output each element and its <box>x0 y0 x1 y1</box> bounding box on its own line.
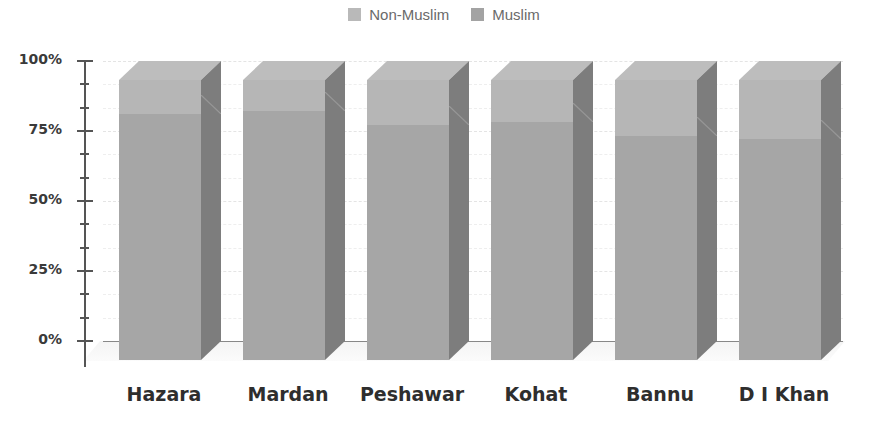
y-axis-line <box>84 61 86 367</box>
bar-side-face <box>697 61 717 360</box>
y-tick-label: 0% <box>0 331 62 347</box>
bar-segment-non-muslim <box>739 80 821 139</box>
bar-segment-non-muslim <box>491 80 573 122</box>
bar-side-split <box>697 117 717 136</box>
bar-segment-non-muslim <box>119 80 201 114</box>
bar-segment-muslim <box>615 136 697 360</box>
legend-item-muslim: Muslim <box>471 6 540 23</box>
legend-swatch-non-muslim <box>348 8 361 21</box>
bar-side-split <box>573 103 593 122</box>
bar-segment-muslim <box>491 122 573 360</box>
chart-legend: Non-Muslim Muslim <box>0 6 888 23</box>
legend-label-muslim: Muslim <box>492 6 540 23</box>
y-tick-label: 50% <box>0 191 62 207</box>
bar-segment-muslim <box>243 111 325 360</box>
x-category-label: Hazara <box>104 383 224 405</box>
bar-segment-non-muslim <box>243 80 325 111</box>
y-tick-label: 75% <box>0 121 62 137</box>
bar-segment-muslim <box>739 139 821 360</box>
legend-item-non-muslim: Non-Muslim <box>348 6 449 23</box>
x-category-label: Peshawar <box>352 383 472 405</box>
bar-segment-muslim <box>367 125 449 360</box>
y-tick-label: 25% <box>0 261 62 277</box>
x-category-label: D I Khan <box>724 383 844 405</box>
y-tick-label: 100% <box>0 51 62 67</box>
legend-label-non-muslim: Non-Muslim <box>369 6 449 23</box>
bar-side-split <box>821 120 841 139</box>
x-category-label: Bannu <box>600 383 720 405</box>
bar-side-split <box>325 92 345 111</box>
x-category-label: Kohat <box>476 383 596 405</box>
bar-segment-non-muslim <box>367 80 449 125</box>
legend-swatch-muslim <box>471 8 484 21</box>
bar-side-face <box>821 61 841 360</box>
x-category-label: Mardan <box>228 383 348 405</box>
bar-segment-non-muslim <box>615 80 697 136</box>
bar-side-split <box>201 95 221 114</box>
bar-side-split <box>449 106 469 125</box>
bar-segment-muslim <box>119 114 201 360</box>
